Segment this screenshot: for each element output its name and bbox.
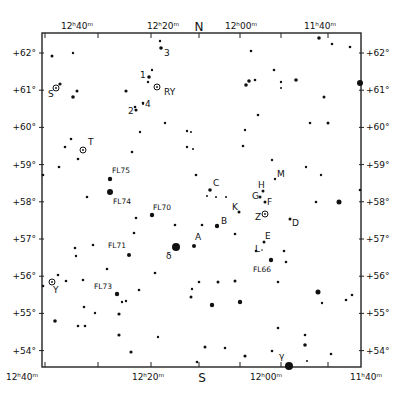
star-dot bbox=[250, 50, 253, 53]
star-dot bbox=[285, 261, 288, 264]
star-dot bbox=[53, 319, 57, 323]
star-dot bbox=[42, 285, 45, 288]
star-dot bbox=[117, 333, 120, 336]
star-dot bbox=[76, 90, 79, 93]
star-dot bbox=[331, 43, 334, 46]
star-label: L bbox=[255, 244, 260, 254]
star-label: C bbox=[213, 178, 219, 188]
star-dot bbox=[115, 292, 119, 296]
dec-label-left: +62° bbox=[13, 48, 37, 58]
compass-labels: NS bbox=[195, 20, 206, 385]
star-label: FL71 bbox=[108, 241, 126, 250]
star-dot bbox=[195, 174, 198, 177]
star-dot bbox=[210, 303, 214, 307]
star-dot bbox=[84, 325, 87, 328]
star-dot bbox=[244, 129, 246, 131]
star-dot bbox=[82, 279, 85, 282]
star-dot bbox=[129, 350, 132, 353]
star-label: FL66 bbox=[253, 265, 271, 274]
dec-label-left: +60° bbox=[13, 122, 37, 132]
star-dot bbox=[94, 312, 96, 314]
star-dot bbox=[124, 89, 127, 92]
star-dot bbox=[58, 166, 61, 169]
star-dot bbox=[190, 296, 193, 299]
star-dot bbox=[244, 83, 248, 87]
star-dot bbox=[164, 122, 166, 124]
star-dot bbox=[225, 196, 227, 198]
star-dot bbox=[201, 224, 204, 227]
star-dot bbox=[142, 103, 144, 105]
star-dot bbox=[147, 75, 151, 79]
star-dot bbox=[273, 69, 276, 72]
variable-star-label: S bbox=[48, 89, 54, 99]
star-dot bbox=[234, 280, 237, 283]
dec-label-right: +56° bbox=[366, 271, 390, 281]
star-dot bbox=[74, 247, 77, 250]
star-dot bbox=[357, 80, 363, 86]
ra-label-bottom: 12ʰ40ᵐ bbox=[6, 372, 39, 382]
north-label: N bbox=[195, 20, 204, 34]
star-dot bbox=[306, 360, 308, 362]
star-dot bbox=[86, 196, 89, 199]
star-dot bbox=[277, 281, 280, 284]
star-label: δ bbox=[166, 251, 172, 261]
star-dot bbox=[327, 122, 330, 125]
star-dot bbox=[191, 288, 193, 290]
star-label: 3 bbox=[164, 48, 170, 58]
star-dot bbox=[337, 200, 342, 205]
axis-ticks: 12ʰ40ᵐ12ʰ20ᵐ12ʰ00ᵐ11ʰ40ᵐ12ʰ40ᵐ12ʰ20ᵐ12ʰ0… bbox=[6, 21, 390, 382]
star-dot bbox=[238, 300, 242, 304]
star-dot bbox=[117, 312, 120, 315]
star-dot bbox=[186, 146, 188, 148]
star-label: K bbox=[232, 202, 239, 212]
star-dot bbox=[254, 79, 257, 82]
dec-label-right: +54° bbox=[366, 346, 390, 356]
star-dot bbox=[285, 362, 293, 370]
star-dot bbox=[274, 178, 276, 180]
star-label: F bbox=[267, 197, 272, 207]
star-dot bbox=[283, 250, 286, 253]
star-dot bbox=[125, 300, 127, 302]
star-label: M bbox=[277, 169, 285, 179]
star-dot bbox=[359, 189, 362, 192]
dec-label-left: +54° bbox=[13, 346, 37, 356]
star-dot bbox=[271, 350, 274, 353]
dec-label-right: +61° bbox=[366, 85, 390, 95]
dec-label-right: +59° bbox=[366, 160, 390, 170]
south-label: S bbox=[198, 371, 206, 385]
star-dot bbox=[106, 268, 109, 271]
star-dot bbox=[323, 96, 326, 99]
star-dot bbox=[154, 272, 157, 275]
star-dot bbox=[317, 36, 321, 40]
dec-label-left: +56° bbox=[13, 271, 37, 281]
star-dot bbox=[217, 281, 220, 284]
star-dot bbox=[192, 148, 194, 150]
star-dot bbox=[147, 81, 149, 83]
star-dot bbox=[131, 151, 134, 154]
ra-label-top: 12ʰ00ᵐ bbox=[225, 21, 258, 31]
star-label: 4 bbox=[145, 99, 151, 109]
star-dot bbox=[159, 40, 161, 42]
star-dot bbox=[150, 213, 154, 217]
star-dot bbox=[271, 159, 273, 161]
star-dot bbox=[305, 166, 307, 168]
star-dot bbox=[139, 131, 141, 133]
star-label: G bbox=[252, 191, 259, 201]
star-dot bbox=[192, 244, 196, 248]
star-dot bbox=[65, 280, 68, 283]
variable-star-label: RY bbox=[164, 87, 176, 97]
star-dot bbox=[138, 289, 141, 292]
star-dot bbox=[247, 79, 251, 83]
star-dot bbox=[204, 346, 207, 349]
star-dot bbox=[277, 327, 280, 330]
star-dot bbox=[349, 46, 352, 49]
star-dot bbox=[186, 130, 188, 132]
dec-label-right: +58° bbox=[366, 197, 390, 207]
star-dot bbox=[224, 347, 227, 350]
star-dot bbox=[58, 82, 61, 85]
star-dot bbox=[294, 78, 298, 82]
star-dot bbox=[321, 302, 323, 304]
star-label: 1 bbox=[140, 70, 146, 80]
star-dot bbox=[345, 299, 348, 302]
star-dot bbox=[133, 232, 136, 235]
